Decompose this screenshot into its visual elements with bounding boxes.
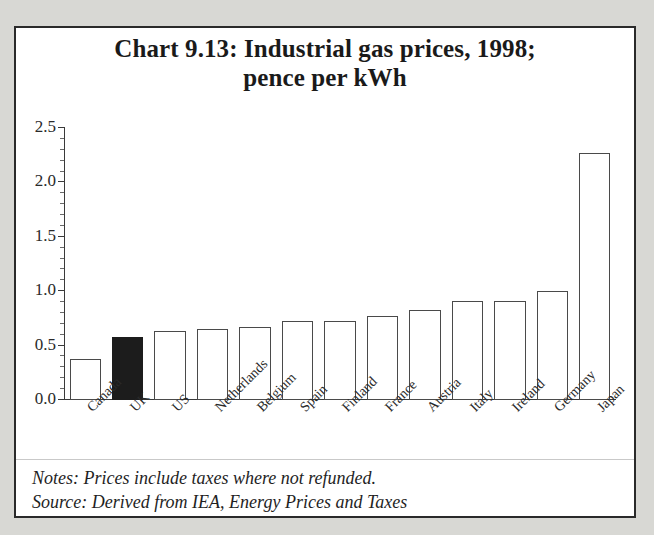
source-line: Source: Derived from IEA, Energy Prices … [32,490,622,514]
bar-finland [324,321,355,400]
y-axis-tick-label: 2.5 [16,117,56,137]
y-axis-tick-label: 2.0 [16,171,56,191]
y-axis-tick-label: 0.5 [16,335,56,355]
y-axis-tick-label: 1.5 [16,226,56,246]
figure-canvas: Chart 9.13: Industrial gas prices, 1998;… [0,0,654,535]
notes-divider [16,459,634,460]
plot-area: 0.00.51.01.52.02.5 CanadaUKUSNetherlands… [16,28,638,520]
notes-line: Notes: Prices include taxes where not re… [32,466,622,490]
y-axis-tick-label: 0.0 [16,389,56,409]
y-axis-tick-label: 1.0 [16,280,56,300]
y-axis-tick-labels: 0.00.51.01.52.02.5 [16,28,56,520]
chart-notes: Notes: Prices include taxes where not re… [32,466,622,515]
bar-series [64,28,616,400]
bar-netherlands [197,329,228,400]
bar-us [154,331,185,400]
bar-ireland [494,301,525,400]
chart-panel: Chart 9.13: Industrial gas prices, 1998;… [14,26,636,518]
bar-japan [579,153,610,400]
